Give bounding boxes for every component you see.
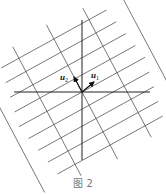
figure-caption: 图 2: [0, 175, 166, 190]
lattice-diagram: u1u2: [0, 0, 166, 195]
vector-u1-label: u1: [91, 70, 99, 81]
grid-lines-u2-family: [0, 0, 166, 192]
grid-line-u2: [13, 47, 81, 176]
vector-u1-arrow-icon: [82, 82, 94, 92]
vector-u2-label: u2: [60, 72, 68, 83]
vector-u2-arrow-icon: [74, 77, 82, 92]
grid-line-u2: [0, 69, 45, 193]
grid-line-u2: [119, 0, 166, 115]
basis-vectors: u1u2: [60, 70, 99, 92]
